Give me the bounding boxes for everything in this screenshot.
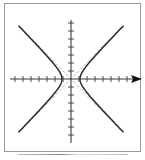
hyperbola-diagram — [0, 0, 145, 160]
caption-rule — [18, 154, 128, 155]
